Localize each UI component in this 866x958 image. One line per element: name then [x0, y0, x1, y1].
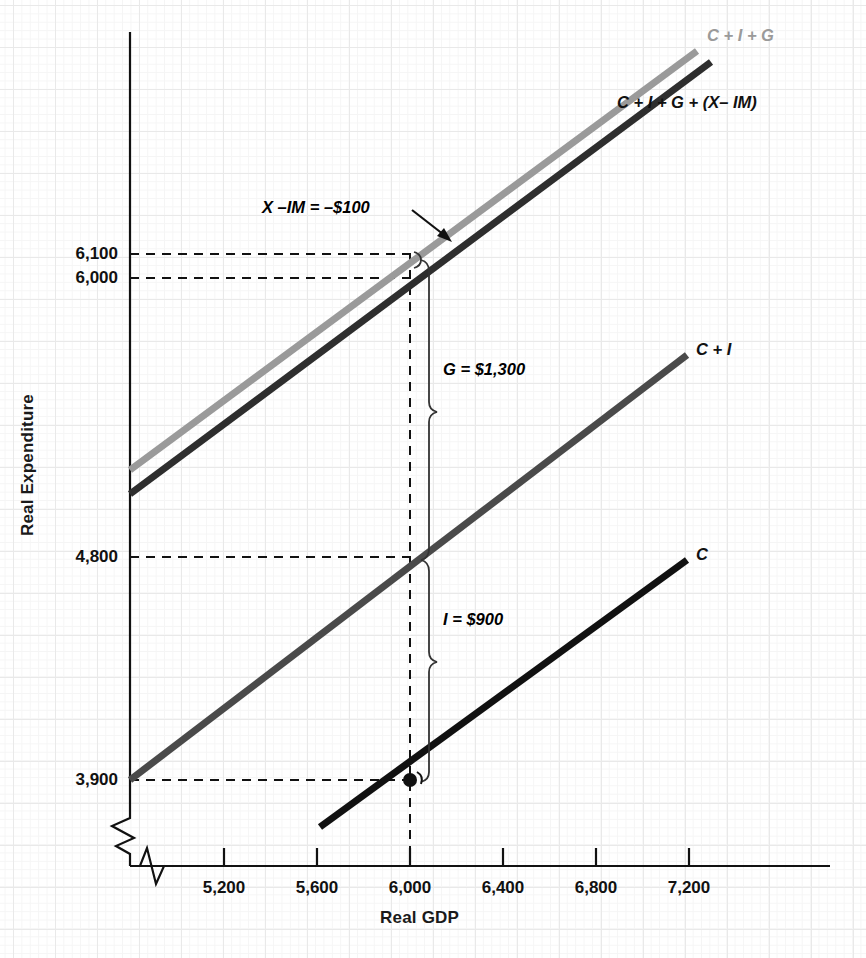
curve-label-c-i-g-x-im: C + I + G + (X– IM): [617, 93, 757, 112]
x-tick-label-5200: 5,200: [203, 878, 246, 898]
x-tick-label-6800: 6,800: [575, 878, 618, 898]
chart-container: 6,100 6,000 4,800 3,900 5,200 5,600 6,00…: [0, 0, 866, 958]
guide-lines: [130, 254, 412, 866]
curve-c-i-g: [130, 51, 697, 470]
brace-government-spending: [421, 260, 437, 560]
curve-c-i: [130, 355, 687, 780]
y-axis-break-icon: [112, 812, 134, 866]
x-axis-title: Real GDP: [380, 908, 459, 928]
y-axis-title: Real Expenditure: [18, 365, 38, 565]
annotation-net-exports: X –IM = –$100: [262, 198, 370, 217]
annotation-government-spending: G = $1,300: [443, 360, 525, 379]
x-tick-label-5600: 5,600: [296, 878, 339, 898]
equilibrium-tick-curl: [417, 772, 422, 784]
curve-label-c-i-g: C + I + G: [707, 26, 774, 45]
x-tick-label-6000: 6,000: [389, 878, 432, 898]
net-exports-arrow-icon: [412, 210, 452, 242]
y-tick-label-3900: 3,900: [38, 770, 118, 790]
plot-area: [0, 0, 866, 958]
annotation-investment: I = $900: [443, 610, 503, 629]
x-tick-label-6400: 6,400: [482, 878, 525, 898]
curve-label-c-i: C + I: [696, 340, 731, 359]
y-tick-label-4800: 4,800: [38, 547, 118, 567]
y-tick-label-6000: 6,000: [38, 268, 118, 288]
equilibrium-point-marker: [403, 773, 417, 787]
x-tick-label-7200: 7,200: [668, 878, 711, 898]
x-axis-break-icon: [130, 848, 174, 884]
curve-label-c: C: [696, 545, 708, 564]
curve-c: [320, 560, 687, 827]
x-tick-marks: [224, 848, 689, 866]
y-tick-label-6100: 6,100: [38, 244, 118, 264]
